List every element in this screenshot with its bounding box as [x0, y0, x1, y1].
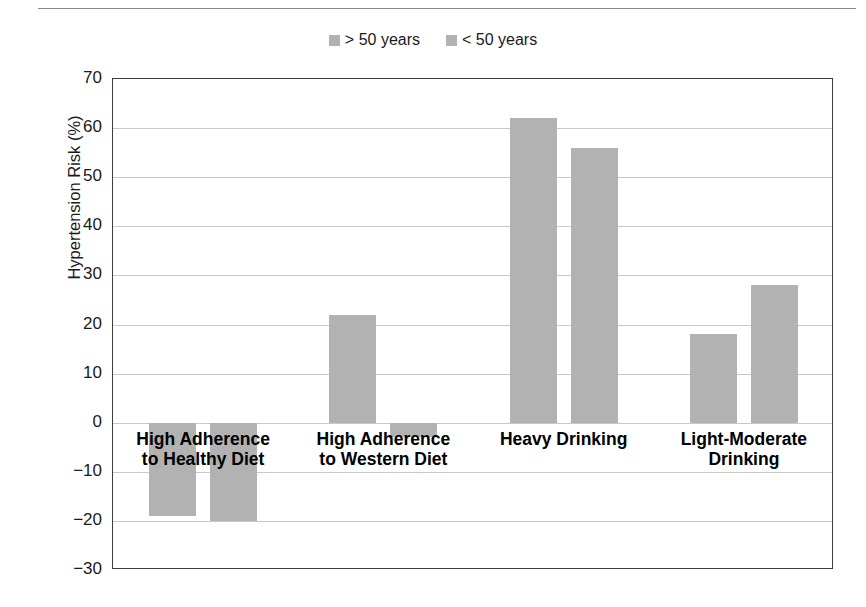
top-divider-rule	[38, 8, 856, 9]
legend-entry-under-50: < 50 years	[446, 32, 537, 48]
bar	[390, 423, 437, 438]
legend-label-under-50: < 50 years	[462, 32, 537, 48]
y-tick-label: 20	[40, 314, 102, 334]
y-tick-label: 50	[40, 166, 102, 186]
bars-layer	[113, 79, 832, 568]
bar	[571, 148, 618, 423]
legend-label-over-50: > 50 years	[345, 32, 420, 48]
chart-legend: > 50 years < 50 years	[0, 32, 866, 48]
legend-swatch-icon	[329, 35, 340, 46]
y-tick-label: −30	[40, 559, 102, 579]
bar	[690, 334, 737, 422]
bar	[210, 423, 257, 521]
bar	[329, 315, 376, 423]
y-tick-label: −10	[40, 461, 102, 481]
y-axis-tick-labels: −30−20−10010203040506070	[30, 78, 102, 569]
legend-swatch-icon	[446, 35, 457, 46]
y-tick-label: 30	[40, 264, 102, 284]
bar	[751, 285, 798, 422]
plot-area: High Adherence to Healthy DietHigh Adher…	[112, 78, 833, 569]
y-tick-label: 40	[40, 215, 102, 235]
y-tick-label: −20	[40, 510, 102, 530]
bar	[510, 118, 557, 422]
y-tick-label: 60	[40, 117, 102, 137]
y-tick-label: 0	[40, 412, 102, 432]
y-tick-label: 10	[40, 363, 102, 383]
bar	[149, 423, 196, 516]
legend-entry-over-50: > 50 years	[329, 32, 420, 48]
y-tick-label: 70	[40, 68, 102, 88]
